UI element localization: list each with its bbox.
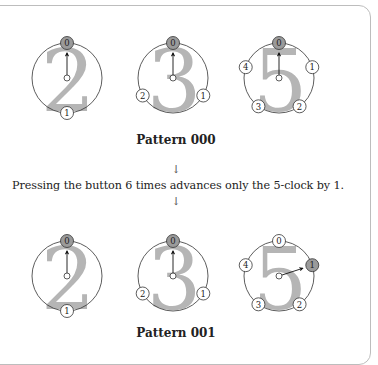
pattern-caption-001: Pattern 001 <box>0 326 352 340</box>
clock-node-label: 2 <box>140 289 145 299</box>
hand-pivot <box>170 273 176 279</box>
clock-node-label: 0 <box>276 236 281 246</box>
hand-pivot <box>276 75 282 81</box>
clock-node-label: 1 <box>310 260 315 270</box>
clock-3: 3012 <box>136 229 210 329</box>
clock-node-label: 3 <box>256 102 261 112</box>
clock-node-label: 0 <box>276 38 281 48</box>
clock-node-label: 1 <box>64 306 69 316</box>
clock-node-label: 0 <box>64 38 69 48</box>
clock-node-label: 3 <box>256 300 261 310</box>
clock-node-label: 2 <box>297 102 302 112</box>
down-arrow-icon: ↓ <box>0 163 352 176</box>
pattern-caption-000: Pattern 000 <box>0 133 352 147</box>
clock-3: 3012 <box>136 31 210 131</box>
clock-2: 201 <box>32 229 102 329</box>
hand-pivot <box>64 273 70 279</box>
clock-node-label: 2 <box>297 300 302 310</box>
hand-pivot <box>276 273 282 279</box>
clock-node-label: 2 <box>140 91 145 101</box>
clock-2: 201 <box>32 31 102 131</box>
hand-pivot <box>170 75 176 81</box>
clock-node-label: 4 <box>243 62 248 72</box>
clock-node-label: 4 <box>243 260 248 270</box>
clock-5: 501234 <box>239 229 319 329</box>
clock-node-label: 1 <box>201 91 206 101</box>
down-arrow-icon: ↓ <box>0 195 352 208</box>
clock-node-label: 0 <box>170 38 175 48</box>
clock-node-label: 1 <box>201 289 206 299</box>
clock-node-label: 1 <box>64 108 69 118</box>
transition-description: Pressing the button 6 times advances onl… <box>0 179 356 192</box>
clock-5: 501234 <box>239 31 319 131</box>
hand-pivot <box>64 75 70 81</box>
clock-node-label: 0 <box>170 236 175 246</box>
clock-node-label: 1 <box>310 62 315 72</box>
clock-node-label: 0 <box>64 236 69 246</box>
